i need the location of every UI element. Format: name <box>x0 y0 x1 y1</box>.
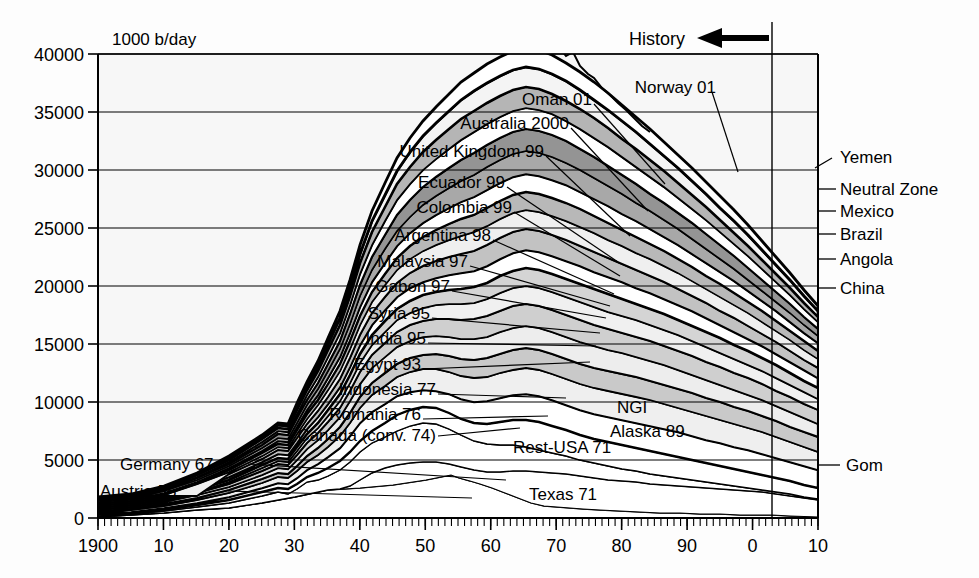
oil-production-stacked-area-chart: 40000 35000 30000 25000 20000 15000 1000… <box>0 0 979 578</box>
x-tick-label: 1900 <box>78 536 118 556</box>
series-label-gom: Gom <box>846 456 883 475</box>
x-tick-label: 20 <box>219 536 239 556</box>
series-label-angola: Angola <box>840 250 893 269</box>
series-label-oman: Oman 01 <box>522 90 592 109</box>
series-label-argentina: Argentina 98 <box>395 226 491 245</box>
y-tick-label: 0 <box>74 509 84 529</box>
series-label-india: India 95 <box>366 329 427 348</box>
series-label-texas: Texas 71 <box>529 485 597 504</box>
y-tick-label: 20000 <box>34 277 84 297</box>
y-axis-unit-label: 1000 b/day <box>112 30 197 49</box>
x-tick-label: 60 <box>481 536 501 556</box>
series-label-colombia: Colombia 99 <box>417 198 512 217</box>
series-label-indonesia: Indonesia 77 <box>339 380 436 399</box>
series-label-gabon: Gabon 97 <box>375 277 450 296</box>
x-tick-label: 40 <box>350 536 370 556</box>
x-tick-label: 70 <box>546 536 566 556</box>
y-tick-label: 40000 <box>34 45 84 65</box>
y-tick-label: 5000 <box>44 451 84 471</box>
x-tick-label: 0 <box>748 536 758 556</box>
series-label-egypt: Egypt 93 <box>354 355 421 374</box>
chart-root: 40000 35000 30000 25000 20000 15000 1000… <box>0 0 979 578</box>
y-tick-label: 10000 <box>34 393 84 413</box>
y-tick-label: 15000 <box>34 335 84 355</box>
series-label-brazil: Brazil <box>840 225 883 244</box>
y-tick-label: 35000 <box>34 103 84 123</box>
series-label-austria: Austria 55 <box>100 482 177 501</box>
y-tick-label: 30000 <box>34 161 84 181</box>
x-tick-label: 90 <box>677 536 697 556</box>
series-label-germany: Germany 67 <box>120 455 214 474</box>
series-label-alaska: Alaska 89 <box>610 422 685 441</box>
history-label: History <box>629 29 685 49</box>
series-label-canada: Canada (conv. 74) <box>297 426 436 445</box>
series-label-rest-usa: Rest-USA 71 <box>513 438 611 457</box>
x-tick-label: 10 <box>153 536 173 556</box>
series-label-norway: Norway 01 <box>635 78 716 97</box>
series-label-united-kingdom: United Kingdom 99 <box>399 142 544 161</box>
series-label-syria: Syria 95 <box>368 304 430 323</box>
y-tick-label: 25000 <box>34 219 84 239</box>
x-tick-label: 10 <box>808 536 828 556</box>
x-tick-label: 50 <box>415 536 435 556</box>
series-label-australia: Australia 2000 <box>460 114 569 133</box>
series-label-mexico: Mexico <box>840 202 894 221</box>
series-label-china: China <box>840 279 885 298</box>
series-label-malaysia: Malaysia 97 <box>377 252 468 271</box>
series-label-ecuador: Ecuador 99 <box>418 173 505 192</box>
series-label-romania: Romania 76 <box>329 405 421 424</box>
series-label-ngi: NGI <box>617 398 647 417</box>
x-tick-label: 30 <box>284 536 304 556</box>
series-label-neutral-zone: Neutral Zone <box>840 180 938 199</box>
x-tick-label: 80 <box>612 536 632 556</box>
series-label-yemen: Yemen <box>840 148 892 167</box>
